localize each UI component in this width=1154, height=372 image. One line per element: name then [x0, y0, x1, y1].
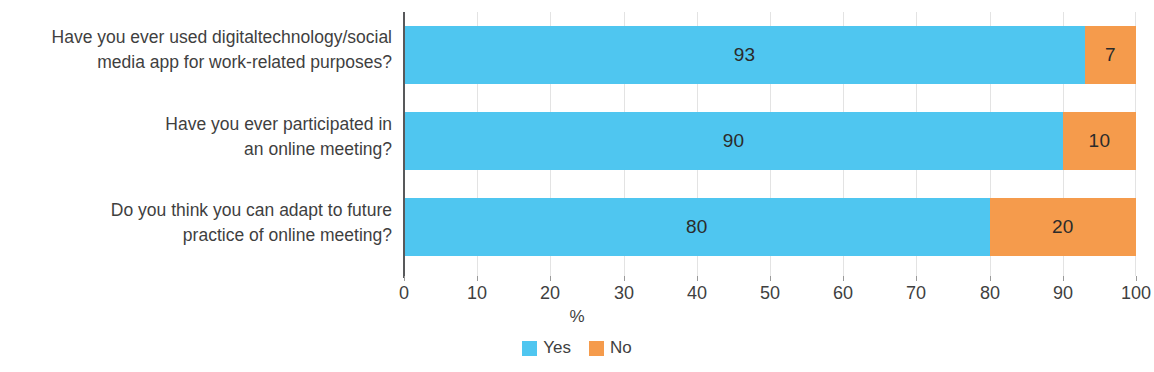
x-tick-mark	[1063, 276, 1064, 281]
x-tick-mark	[624, 276, 625, 281]
x-tick-mark	[404, 276, 405, 281]
x-tick-mark	[550, 276, 551, 281]
x-tick-mark	[770, 276, 771, 281]
chart-legend: Yes No	[0, 338, 1154, 358]
x-tick-label: 20	[520, 283, 580, 304]
x-axis-title: %	[0, 307, 1154, 327]
x-tick-label: 10	[447, 283, 507, 304]
bar-row: 80 20	[404, 198, 1136, 256]
category-label-line: practice of online meeting?	[6, 223, 392, 248]
legend-label: Yes	[543, 338, 571, 358]
x-tick-label: 80	[960, 283, 1020, 304]
bar-segment-yes[interactable]: 80	[404, 198, 990, 256]
legend-item-no[interactable]: No	[589, 338, 632, 358]
bar-row: 90 10	[404, 112, 1136, 170]
bar-segment-yes[interactable]: 90	[404, 112, 1063, 170]
legend-item-yes[interactable]: Yes	[522, 338, 571, 358]
bar-value-label: 7	[1105, 44, 1116, 66]
category-label-line: Have you ever used digitaltechnology/soc…	[6, 25, 392, 50]
bar-value-label: 93	[734, 44, 756, 66]
legend-label: No	[610, 338, 632, 358]
category-label: Have you ever participated in an online …	[6, 112, 392, 162]
x-tick-mark	[477, 276, 478, 281]
bar-segment-no[interactable]: 10	[1063, 112, 1136, 170]
x-tick-mark	[697, 276, 698, 281]
bar-segment-yes[interactable]: 93	[404, 26, 1085, 84]
x-tick-label: 30	[594, 283, 654, 304]
x-tick-label: 100	[1106, 283, 1154, 304]
stacked-bar-chart: 93 7 90 10 80 20 Have you	[0, 0, 1154, 372]
bar-value-label: 20	[1052, 216, 1074, 238]
x-tick-mark	[843, 276, 844, 281]
x-tick-label: 70	[886, 283, 946, 304]
category-label-line: media app for work-related purposes?	[6, 50, 392, 75]
category-label: Do you think you can adapt to future pra…	[6, 198, 392, 248]
x-tick-mark	[1136, 276, 1137, 281]
bar-value-label: 90	[723, 130, 745, 152]
x-tick-label: 40	[667, 283, 727, 304]
legend-swatch-icon	[589, 341, 604, 356]
x-tick-label: 60	[813, 283, 873, 304]
x-tick-label: 50	[740, 283, 800, 304]
category-label: Have you ever used digitaltechnology/soc…	[6, 25, 392, 75]
category-label-line: Do you think you can adapt to future	[6, 198, 392, 223]
bar-segment-no[interactable]: 20	[990, 198, 1136, 256]
bar-row: 93 7	[404, 26, 1136, 84]
category-label-line: Have you ever participated in	[6, 112, 392, 137]
category-label-line: an online meeting?	[6, 137, 392, 162]
bar-segment-no[interactable]: 7	[1085, 26, 1136, 84]
plot-area: 93 7 90 10 80 20	[404, 12, 1136, 276]
y-axis-line	[403, 12, 405, 278]
bar-value-label: 80	[686, 216, 708, 238]
legend-swatch-icon	[522, 341, 537, 356]
bar-value-label: 10	[1089, 130, 1111, 152]
x-tick-mark	[990, 276, 991, 281]
x-tick-label: 90	[1033, 283, 1093, 304]
x-tick-label: 0	[374, 283, 434, 304]
x-tick-mark	[916, 276, 917, 281]
